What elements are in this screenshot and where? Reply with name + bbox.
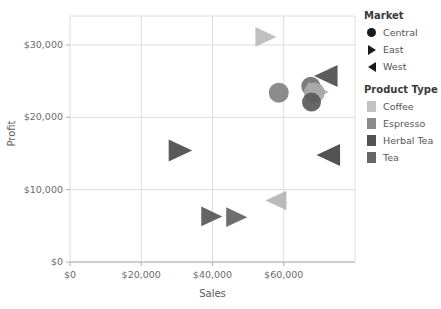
circle-icon: [364, 27, 379, 39]
legend-group-market: Market CentralEastWest: [364, 10, 441, 75]
data-point-triangle-right: [226, 207, 247, 227]
legend-marker: [368, 62, 376, 72]
data-point-triangle-right: [201, 207, 222, 227]
scatter-plot-visualization: $0$10,000$20,000$30,000 $0$20,000$40,000…: [0, 0, 441, 309]
data-point-circle: [269, 83, 289, 103]
legend-title-product-type: Product Type: [364, 84, 441, 95]
color-swatch-icon: [364, 118, 379, 130]
legend-swatch: [367, 101, 376, 112]
legend-item-product-type[interactable]: Tea: [364, 149, 441, 166]
legend-swatch: [367, 118, 376, 129]
legend-item-product-type[interactable]: Coffee: [364, 98, 441, 115]
legend-item-label: Espresso: [383, 118, 425, 129]
legend-item-label: Central: [383, 27, 418, 38]
legend-item-label: Herbal Tea: [383, 135, 433, 146]
legend-item-market[interactable]: East: [364, 41, 441, 58]
legend-group-product-type: Product Type CoffeeEspressoHerbal TeaTea: [364, 84, 441, 166]
plot-area: [70, 16, 355, 262]
plot-canvas: [70, 16, 355, 262]
color-swatch-icon: [364, 152, 379, 164]
legend-item-market[interactable]: West: [364, 58, 441, 75]
legend-item-label: West: [383, 61, 406, 72]
color-swatch-icon: [364, 101, 379, 113]
x-tick-label: $40,000: [193, 269, 232, 280]
data-point-circle: [302, 93, 321, 112]
legend-item-label: Tea: [383, 152, 399, 163]
legend-item-label: Coffee: [383, 101, 414, 112]
gridlines: [70, 16, 355, 262]
legend-marker: [367, 28, 376, 37]
legend-item-label: East: [383, 44, 404, 55]
legend-swatch: [367, 135, 376, 146]
x-tick-label: $20,000: [122, 269, 161, 280]
data-point-triangle-right: [255, 27, 276, 47]
data-point-triangle-left: [265, 191, 286, 211]
triangle-left-icon: [364, 61, 379, 73]
x-tick-label: $0: [64, 269, 76, 280]
legend-swatch: [367, 152, 376, 163]
data-point-triangle-right: [169, 140, 193, 162]
legend-item-product-type[interactable]: Herbal Tea: [364, 132, 441, 149]
legend-item-product-type[interactable]: Espresso: [364, 115, 441, 132]
x-axis-title: Sales: [70, 288, 355, 299]
legend-item-market[interactable]: Central: [364, 24, 441, 41]
legend-items-product-type: CoffeeEspressoHerbal TeaTea: [364, 98, 441, 166]
triangle-right-icon: [364, 44, 379, 56]
legend: Market CentralEastWest Product Type Coff…: [364, 10, 441, 166]
legend-items-market: CentralEastWest: [364, 24, 441, 75]
color-swatch-icon: [364, 135, 379, 147]
data-marks: [169, 27, 340, 227]
x-tick-label: $60,000: [264, 269, 303, 280]
legend-marker: [368, 45, 376, 55]
data-point-triangle-left: [317, 144, 341, 166]
legend-title-market: Market: [364, 10, 441, 21]
y-axis-title: Profit: [6, 104, 17, 164]
